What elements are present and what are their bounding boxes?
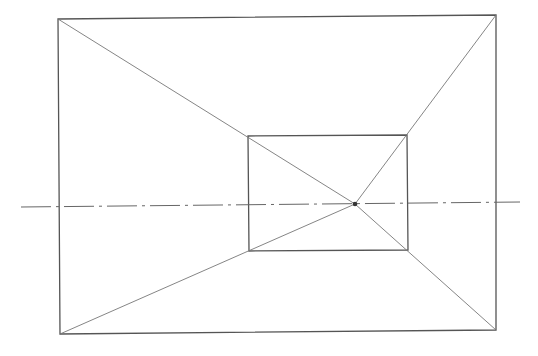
outer-rectangle	[58, 15, 496, 334]
perspective-diagram	[0, 0, 538, 356]
horizon-line	[21, 202, 520, 207]
receding-line-bottom-right	[355, 204, 496, 330]
receding-line-bottom-left	[60, 204, 355, 334]
receding-line-top-right	[355, 15, 496, 204]
receding-line-top-left	[58, 19, 355, 204]
vanishing-point	[353, 202, 358, 207]
